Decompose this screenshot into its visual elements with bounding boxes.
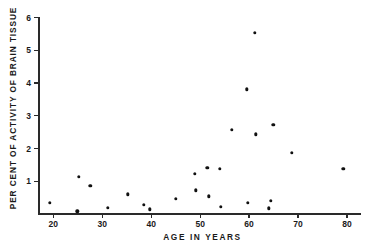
x-tick-label-20: 20 — [49, 220, 58, 229]
data-point — [269, 199, 272, 202]
data-point — [194, 189, 197, 192]
y-tick-5: 5 — [34, 50, 39, 51]
y-axis-label: PER CENT OF ACTIVITY OF BRAIN TISSUE — [8, 6, 18, 209]
data-point — [290, 151, 293, 154]
data-point — [193, 172, 196, 175]
data-point — [142, 203, 145, 206]
x-tick-label-80: 80 — [342, 220, 351, 229]
data-point — [267, 207, 270, 210]
data-point — [272, 123, 275, 126]
data-point — [206, 166, 209, 169]
y-tick-label-5: 5 — [26, 46, 31, 55]
data-point — [342, 167, 345, 170]
data-point — [148, 208, 151, 211]
data-point — [174, 197, 177, 200]
y-tick-3: 3 — [34, 115, 39, 116]
data-point — [245, 88, 248, 91]
data-point — [126, 193, 129, 196]
data-point — [207, 195, 210, 198]
y-tick-label-6: 6 — [26, 13, 31, 22]
x-tick-50: 50 — [200, 213, 201, 218]
x-tick-70: 70 — [297, 213, 298, 218]
x-tick-30: 30 — [102, 213, 103, 218]
x-tick-label-30: 30 — [98, 220, 107, 229]
y-tick-label-1: 1 — [26, 177, 31, 186]
x-tick-80: 80 — [346, 213, 347, 218]
y-tick-label-2: 2 — [26, 144, 31, 153]
y-tick-label-3: 3 — [26, 112, 31, 121]
data-point — [230, 128, 233, 131]
x-tick-label-40: 40 — [146, 220, 155, 229]
scatter-plot-figure: PER CENT OF ACTIVITY OF BRAIN TISSUE 123… — [0, 0, 375, 251]
data-point — [89, 184, 92, 187]
x-axis-label: AGE IN YEARS — [0, 232, 375, 242]
x-tick-label-70: 70 — [293, 220, 302, 229]
data-point — [218, 167, 221, 170]
plot-area: 123456 20304050607080 — [38, 17, 361, 215]
data-point — [77, 175, 80, 178]
y-tick-6: 6 — [34, 17, 39, 18]
x-tick-40: 40 — [151, 213, 152, 218]
data-point — [106, 206, 109, 209]
data-point — [219, 205, 222, 208]
x-tick-label-60: 60 — [244, 220, 253, 229]
y-tick-4: 4 — [34, 82, 39, 83]
x-tick-label-50: 50 — [195, 220, 204, 229]
y-tick-label-4: 4 — [26, 79, 31, 88]
y-axis-label-container: PER CENT OF ACTIVITY OF BRAIN TISSUE — [0, 0, 26, 215]
y-tick-2: 2 — [34, 148, 39, 149]
data-point — [246, 201, 249, 204]
x-tick-20: 20 — [53, 213, 54, 218]
y-tick-1: 1 — [34, 181, 39, 182]
data-point — [254, 132, 257, 135]
x-tick-60: 60 — [248, 213, 249, 218]
y-axis-line — [38, 17, 40, 215]
data-point — [253, 31, 256, 34]
data-point — [48, 201, 51, 204]
